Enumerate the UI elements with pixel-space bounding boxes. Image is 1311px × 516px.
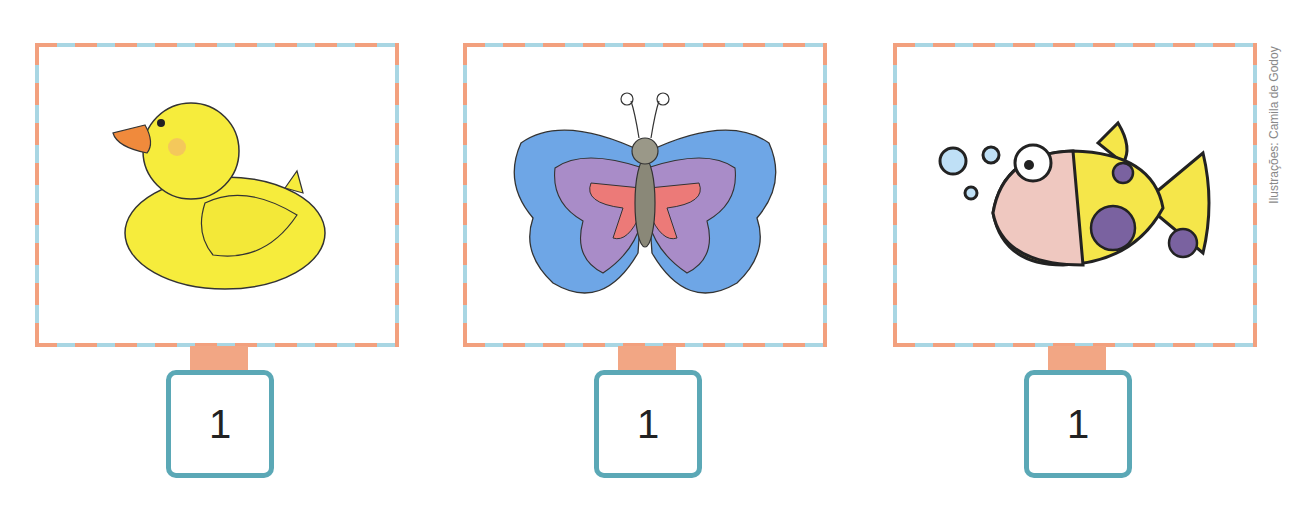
fish-illustration xyxy=(893,43,1257,347)
credit-text: Ilustrações: Camila de Godoy xyxy=(1267,46,1281,203)
picture-frame xyxy=(35,43,399,347)
picture-frame xyxy=(463,43,827,347)
number-box[interactable]: 1 xyxy=(1024,370,1132,478)
picture-frame xyxy=(893,43,1257,347)
card-duck: 1 xyxy=(35,0,401,490)
connector-tab xyxy=(190,346,248,372)
number-box[interactable]: 1 xyxy=(594,370,702,478)
connector-tab xyxy=(618,346,676,372)
card-fish: 1 xyxy=(893,0,1259,490)
butterfly-illustration xyxy=(463,43,827,347)
connector-tab xyxy=(1048,346,1106,372)
duck-illustration xyxy=(35,43,399,347)
number-box[interactable]: 1 xyxy=(166,370,274,478)
illustration-credit: Ilustrações: Camila de Godoy xyxy=(1266,40,1282,210)
card-butterfly: 1 xyxy=(463,0,829,490)
